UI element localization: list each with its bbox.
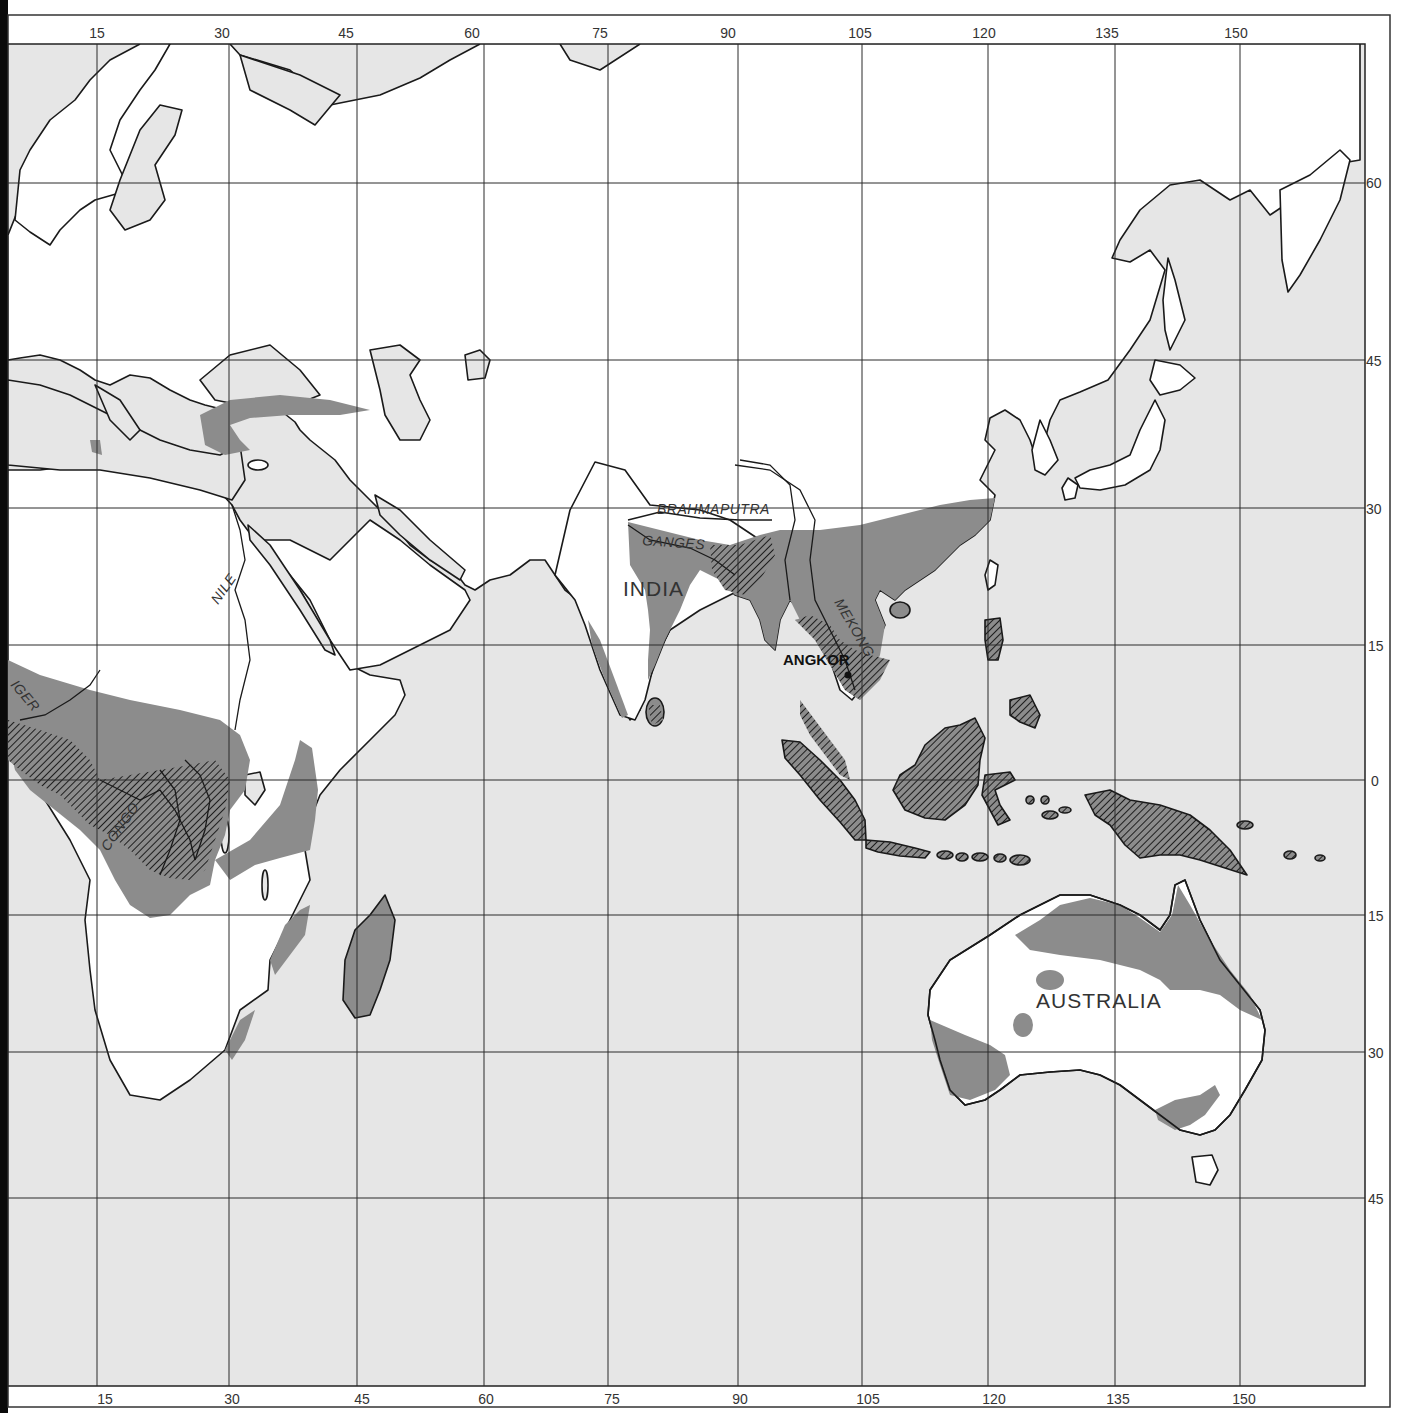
lon-label-bottom: 30: [224, 1391, 240, 1407]
lon-label-top: 90: [720, 25, 736, 41]
lat-label: 45: [1366, 353, 1382, 369]
lat-label: 15: [1368, 638, 1384, 654]
lon-label-bottom: 75: [604, 1391, 620, 1407]
lon-label-bottom: 15: [97, 1391, 113, 1407]
lon-label-top: 15: [89, 25, 105, 41]
central-australia-shaded-1: [1036, 970, 1064, 990]
hainan: [890, 602, 910, 618]
lon-label-bottom: 135: [1106, 1391, 1130, 1407]
australia-label: AUSTRALIA: [1036, 989, 1162, 1012]
lake-malawi: [262, 870, 268, 900]
lat-label: 60: [1366, 175, 1382, 191]
lon-label-top: 75: [592, 25, 608, 41]
lat-label: 15: [1368, 908, 1384, 924]
lat-label: 30: [1366, 501, 1382, 517]
cyprus: [248, 460, 268, 470]
lon-label-top: 30: [214, 25, 230, 41]
lon-label-bottom: 120: [982, 1391, 1006, 1407]
lon-label-bottom: 150: [1232, 1391, 1256, 1407]
lat-label: 45: [1368, 1191, 1384, 1207]
lon-label-top: 105: [848, 25, 872, 41]
lon-label-bottom: 90: [732, 1391, 748, 1407]
lon-label-top: 45: [338, 25, 354, 41]
lon-label-top: 150: [1224, 25, 1248, 41]
map-canvas: 15 30 45 60 75 90 105 120 135 150 15 30 …: [0, 0, 1401, 1413]
lon-label-top: 120: [972, 25, 996, 41]
central-australia-shaded-2: [1013, 1013, 1033, 1037]
angkor-label: ANGKOR: [783, 651, 850, 668]
lon-label-top: 60: [464, 25, 480, 41]
lon-label-bottom: 105: [856, 1391, 880, 1407]
lat-label: 0: [1371, 773, 1379, 789]
lon-label-bottom: 45: [354, 1391, 370, 1407]
lon-label-bottom: 60: [478, 1391, 494, 1407]
brahmaputra-label: BRAHMAPUTRA: [657, 501, 770, 517]
lat-label: 30: [1368, 1045, 1384, 1061]
lon-label-top: 135: [1095, 25, 1119, 41]
india-label: INDIA: [623, 577, 684, 600]
angkor-marker: [845, 672, 852, 679]
